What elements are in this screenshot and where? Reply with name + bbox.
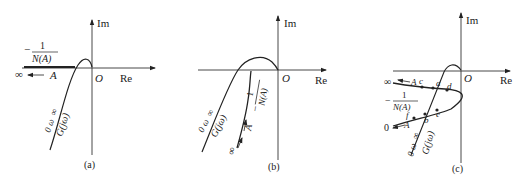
panel-c: Im Re O c a d e b f ∞ A − 1 N(A) 0 A — [384, 13, 512, 175]
re-label: Re — [120, 72, 132, 84]
neg-inv-N-den: N(A) — [31, 53, 52, 65]
neg-inv-N-num: 1 — [40, 40, 45, 51]
omega-inf: ∞ — [48, 107, 59, 116]
point-a — [431, 86, 434, 89]
neg-inv-N-den: N(A) — [256, 87, 269, 107]
caption-a: (a) — [84, 159, 95, 171]
origin-label: O — [464, 72, 472, 84]
panel-a: Im Re O − 1 N(A) ∞ A 0 ω ∞ G(jω) (a) — [15, 17, 155, 171]
point-label-b: b — [424, 115, 429, 125]
point-label-a: a — [436, 78, 441, 88]
describing-function-diagram: Im Re O − 1 N(A) ∞ A 0 ω ∞ G(jω) (a) Im … — [0, 0, 524, 185]
zero-label: 0 — [384, 122, 389, 133]
im-label: Im — [284, 17, 297, 29]
caption-c: (c) — [452, 163, 463, 175]
neg-inv-N-num: 1 — [245, 91, 256, 97]
point-label-e: e — [436, 109, 440, 119]
infinity-label: ∞ — [15, 68, 23, 80]
im-label: Im — [466, 14, 479, 26]
G-label: G(jω) — [419, 129, 437, 156]
im-label: Im — [97, 17, 110, 29]
neg-inv-N-minus: − — [24, 43, 30, 55]
neg-inv-N-minus: − — [385, 95, 391, 106]
caption-b: (b) — [268, 161, 280, 173]
point-f — [412, 116, 415, 119]
origin-label: O — [282, 72, 290, 84]
re-label: Re — [315, 74, 327, 86]
omega-zero: 0 — [405, 150, 416, 157]
infinity-label: ∞ — [384, 76, 391, 87]
point-label-c: c — [419, 76, 423, 86]
origin-label: O — [95, 72, 103, 84]
A-label-top: A — [410, 77, 417, 87]
A-label-bottom: A — [403, 120, 410, 130]
neg-inv-N-num: 1 — [402, 90, 407, 100]
omega-label: ω — [407, 142, 418, 151]
neg-inv-N-den: N(A) — [392, 102, 411, 112]
omega-inf: ∞ — [204, 108, 216, 118]
omega-label: ω — [199, 117, 211, 127]
re-label: Re — [500, 74, 512, 86]
A-label: A — [49, 69, 57, 81]
omega-label: ω — [45, 118, 56, 127]
infinity-label: ∞ — [225, 146, 237, 155]
point-label-d: d — [447, 81, 452, 91]
A-direction-arrow-top — [398, 80, 410, 82]
panel-b: Im Re O ∞ A − 1 N(A) 0 ω ∞ G(jω) (b) — [196, 16, 327, 173]
